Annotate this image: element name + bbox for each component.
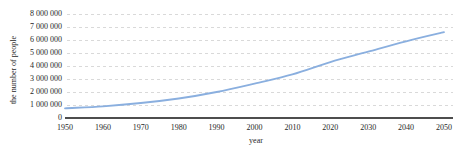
gridline [67, 14, 453, 15]
x-tick-label: 2030 [348, 123, 388, 132]
gridline [67, 66, 453, 67]
x-tick-label: 2010 [272, 123, 312, 132]
population-series-line [65, 32, 444, 108]
x-tick-label: 1960 [83, 123, 123, 132]
y-tick-label: 7 000 000 [24, 23, 62, 31]
x-axis-line [65, 117, 453, 119]
x-tick-label: 1950 [45, 123, 85, 132]
y-axis-title: the number of people [8, 25, 20, 115]
gridline [67, 92, 453, 93]
x-tick-label: 2000 [235, 123, 275, 132]
gridline [67, 79, 453, 80]
y-tick-label: 8 000 000 [24, 10, 62, 18]
x-tick-label: 2020 [310, 123, 350, 132]
y-tick-label: 6 000 000 [24, 36, 62, 44]
y-tick-label: 5 000 000 [24, 49, 62, 57]
y-tick-label: 2 000 000 [24, 88, 62, 96]
gridline [67, 105, 453, 106]
x-axis-title: year [236, 136, 276, 145]
gridline [67, 27, 453, 28]
x-tick-label: 1990 [197, 123, 237, 132]
population-line-chart: the number of people 01 000 0002 000 000… [0, 0, 469, 155]
y-tick-label: 3 000 000 [24, 75, 62, 83]
y-tick-label: 4 000 000 [24, 62, 62, 70]
x-tick-label: 2040 [386, 123, 426, 132]
gridline [67, 40, 453, 41]
gridline [67, 53, 453, 54]
y-tick-label: 1 000 000 [24, 101, 62, 109]
x-tick-label: 2050 [424, 123, 464, 132]
x-tick-label: 1980 [159, 123, 199, 132]
x-tick-label: 1970 [121, 123, 161, 132]
y-tick-label: 0 [24, 114, 62, 122]
